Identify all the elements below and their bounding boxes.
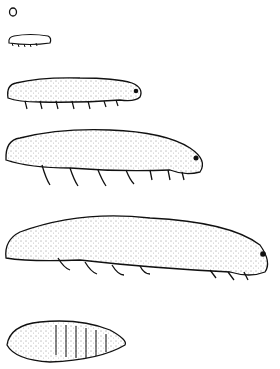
life-stages-illustration xyxy=(0,0,280,369)
larva-instar-4 xyxy=(6,216,268,280)
larva-instar-3 xyxy=(6,130,203,186)
larva-instar-2 xyxy=(8,78,141,109)
larva-instar-1 xyxy=(9,35,51,48)
egg xyxy=(10,8,17,16)
pupa xyxy=(7,321,125,362)
